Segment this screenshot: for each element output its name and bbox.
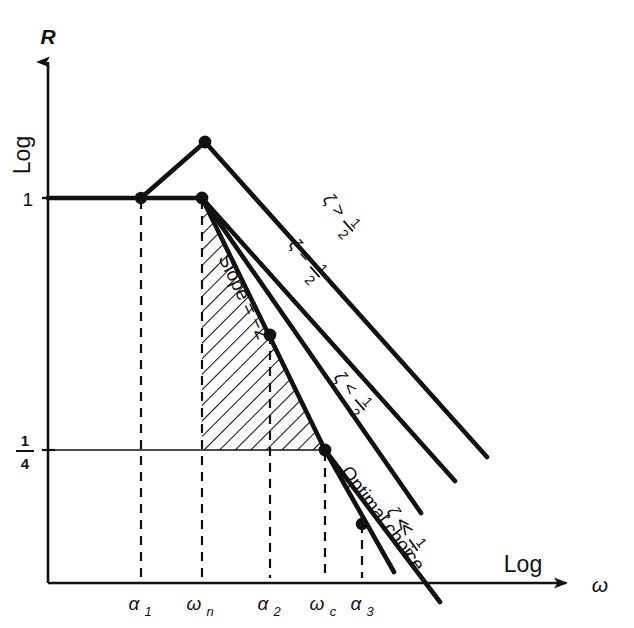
plot-canvas: R Log 1 1 4 Log ω α 1 ω n α [0, 0, 634, 628]
marker-omega-n [196, 192, 209, 205]
x-tick-label-alpha-3: α 3 [351, 593, 375, 619]
x-axis-labels: Log ω α 1 ω n α 2 ω c α 3 [129, 551, 609, 619]
x-tick-omegac-base: ω [310, 593, 325, 614]
y-tick-label-quarter: 1 4 [16, 432, 34, 472]
x-tick-alpha2-base: α [258, 593, 270, 614]
zeta-eq-denominator: 2 [302, 272, 319, 289]
label-zeta-greater-half: ζ > 1 2 [311, 188, 365, 243]
x-tick-label-alpha-2: α 2 [258, 593, 282, 619]
x-tick-label-omega-c: ω c [310, 593, 337, 619]
x-tick-alpha1-base: α [129, 593, 141, 614]
quarter-numerator: 1 [21, 432, 29, 449]
x-tick-alpha3-base: α [351, 593, 363, 614]
label-zeta-equal-half: ζ = 1 2 [277, 233, 332, 289]
zeta-gt-relation: > [328, 200, 350, 221]
marker-alpha1 [135, 192, 147, 204]
x-tick-omegac-sub: c [330, 604, 337, 619]
x-tick-alpha2-sub: 2 [272, 604, 281, 619]
label-zeta-less-half: ζ < 1 2 [322, 366, 377, 422]
x-tick-omegan-base: ω [187, 593, 202, 614]
axes-group [48, 62, 566, 583]
x-tick-label-omega-n: ω n [187, 593, 214, 619]
marker-alpha3 [356, 518, 368, 530]
x-tick-omegan-sub: n [206, 604, 213, 619]
y-tick-label-one: 1 [22, 189, 33, 210]
optimal-choice-annotation: Optimal choice [337, 462, 429, 575]
x-tick-alpha3-sub: 3 [366, 604, 374, 619]
curve-zeta-greater-half [141, 142, 487, 457]
zeta-gt-denominator: 2 [335, 226, 352, 243]
x-tick-alpha1-sub: 1 [144, 604, 151, 619]
zeta-lt-relation: < [339, 378, 361, 399]
y-axis-labels: R Log 1 1 4 [9, 25, 56, 472]
marker-peak [199, 136, 212, 149]
y-axis-scale-label: Log [9, 136, 35, 174]
y-axis-variable-label: R [40, 25, 56, 48]
x-axis-scale-label: Log [504, 551, 542, 577]
x-axis-variable-label: ω [592, 573, 608, 596]
x-tick-label-alpha-1: α 1 [129, 593, 152, 619]
bode-asymptote-figure: R Log 1 1 4 Log ω α 1 ω n α [0, 0, 634, 628]
marker-omega-c [319, 444, 332, 457]
quarter-denominator: 4 [21, 455, 30, 472]
